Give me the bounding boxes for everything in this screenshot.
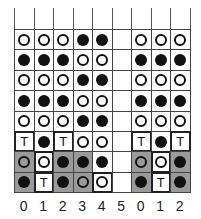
- grid-cell: [112, 151, 133, 172]
- filled-dot-icon: [155, 54, 167, 66]
- filled-dot-icon: [96, 34, 108, 46]
- filled-dot-icon: [96, 74, 108, 86]
- grid-cell: T: [131, 131, 152, 152]
- grid-cell: [73, 131, 94, 152]
- header-gridline: [151, 8, 152, 29]
- filled-dot-icon: [57, 156, 69, 168]
- filled-dot-icon: [96, 156, 108, 168]
- grid-cell: [151, 111, 172, 132]
- grid-cell: [170, 90, 191, 111]
- header-gridline: [34, 8, 35, 29]
- open-dot-icon: [57, 34, 69, 46]
- grid-cell: [170, 70, 191, 91]
- grid-cell: [131, 172, 152, 193]
- grid-cell: [73, 172, 94, 193]
- grid-cell: [92, 29, 113, 50]
- grid-cell: [53, 70, 74, 91]
- grid-cell: T: [170, 131, 191, 152]
- grid-cell: [73, 90, 94, 111]
- column-label: 5: [112, 198, 132, 214]
- column-label: 2: [170, 198, 190, 214]
- open-dot-icon: [155, 74, 167, 86]
- grid-cell: [34, 111, 55, 132]
- filled-dot-icon: [77, 34, 89, 46]
- filled-dot-icon: [77, 115, 89, 127]
- filled-dot-icon: [77, 74, 89, 86]
- filled-dot-icon: [155, 95, 167, 107]
- column-label: 0: [14, 198, 34, 214]
- filled-dot-icon: [57, 95, 69, 107]
- grid-cell: [34, 151, 55, 172]
- column-label: 3: [73, 198, 93, 214]
- grid-cell: [14, 29, 35, 50]
- t-marker: T: [20, 135, 28, 148]
- grid-cell: [92, 49, 113, 70]
- column-label: 0: [131, 198, 151, 214]
- grid-cell: [131, 70, 152, 91]
- filled-dot-icon: [174, 176, 186, 188]
- t-marker: T: [40, 176, 48, 189]
- grid-cell: [53, 49, 74, 70]
- grid-cell: T: [14, 131, 35, 152]
- grid-cell: [170, 49, 191, 70]
- grid-cell: [92, 172, 113, 193]
- filled-dot-icon: [174, 95, 186, 107]
- open-dot-icon: [96, 54, 108, 66]
- column-label: 1: [34, 198, 54, 214]
- grid-cell: [73, 49, 94, 70]
- header-gridline: [112, 8, 113, 29]
- filled-dot-icon: [135, 95, 147, 107]
- grid-cell: [131, 151, 152, 172]
- filled-dot-icon: [38, 95, 50, 107]
- header-gridline: [53, 8, 54, 29]
- grid-cell: [73, 70, 94, 91]
- header-gridline: [170, 8, 171, 29]
- grid-cell: [53, 111, 74, 132]
- grid-cell: [112, 49, 133, 70]
- grid-cell: [53, 29, 74, 50]
- grid-cell: [151, 131, 172, 152]
- grid-cell: [34, 70, 55, 91]
- grid-cell: [73, 111, 94, 132]
- open-dot-icon: [18, 156, 30, 168]
- column-label: 4: [92, 198, 112, 214]
- filled-dot-icon: [135, 176, 147, 188]
- grid-cell: [34, 49, 55, 70]
- open-dot-icon: [96, 176, 108, 188]
- grid-cell: [14, 49, 35, 70]
- open-dot-icon: [57, 74, 69, 86]
- header-gridline: [190, 8, 191, 29]
- header-gridline: [14, 8, 15, 29]
- grid-cell: [170, 29, 191, 50]
- grid-cell: [53, 172, 74, 193]
- grid-cell: [34, 90, 55, 111]
- filled-dot-icon: [18, 176, 30, 188]
- grid-cell: [14, 70, 35, 91]
- open-dot-icon: [18, 34, 30, 46]
- open-dot-icon: [18, 74, 30, 86]
- grid-cell: [131, 29, 152, 50]
- grid-cell: [53, 90, 74, 111]
- filled-dot-icon: [38, 54, 50, 66]
- grid-cell: [112, 70, 133, 91]
- grid-cell: [151, 49, 172, 70]
- open-dot-icon: [77, 136, 89, 148]
- grid-cell: [170, 172, 191, 193]
- open-dot-icon: [155, 34, 167, 46]
- filled-dot-icon: [18, 54, 30, 66]
- open-dot-icon: [77, 176, 89, 188]
- grid-cell: [112, 111, 133, 132]
- open-dot-icon: [57, 115, 69, 127]
- grid-cell: [170, 111, 191, 132]
- open-dot-icon: [174, 115, 186, 127]
- grid-cell: [14, 111, 35, 132]
- grid-cell: T: [151, 172, 172, 193]
- grid-cell: [131, 90, 152, 111]
- grid-cell: [92, 151, 113, 172]
- t-marker: T: [59, 135, 67, 148]
- header-gridline: [92, 8, 93, 29]
- open-dot-icon: [174, 34, 186, 46]
- grid-cell: [73, 29, 94, 50]
- grid-cell: [151, 70, 172, 91]
- grid-cell: [112, 172, 133, 193]
